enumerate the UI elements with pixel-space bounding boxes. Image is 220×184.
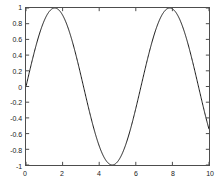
y-tick-label: 0 bbox=[0, 83, 22, 90]
y-tick-label: 0.2 bbox=[0, 67, 22, 74]
x-tick-label: 6 bbox=[134, 170, 138, 177]
x-tick-label: 4 bbox=[97, 170, 101, 177]
sine-curve bbox=[26, 8, 209, 165]
y-tick-label: -0.4 bbox=[0, 115, 22, 122]
y-tick-label: -0.2 bbox=[0, 99, 22, 106]
x-tick-label: 10 bbox=[206, 170, 214, 177]
x-tick-label: 2 bbox=[60, 170, 64, 177]
plot-area bbox=[25, 7, 210, 166]
y-tick-label: 0.8 bbox=[0, 19, 22, 26]
y-tick-label: -0.8 bbox=[0, 147, 22, 154]
y-tick-label: 0.4 bbox=[0, 51, 22, 58]
x-tick-label: 8 bbox=[171, 170, 175, 177]
y-tick-label: -1 bbox=[0, 163, 22, 170]
x-tick-label: 0 bbox=[23, 170, 27, 177]
y-tick-label: 1 bbox=[0, 4, 22, 11]
figure-canvas: -1-0.8-0.6-0.4-0.200.20.40.60.81 0246810 bbox=[0, 0, 220, 184]
y-tick-label: 0.6 bbox=[0, 35, 22, 42]
y-tick-label: -0.6 bbox=[0, 131, 22, 138]
sine-curve-path bbox=[26, 8, 209, 165]
